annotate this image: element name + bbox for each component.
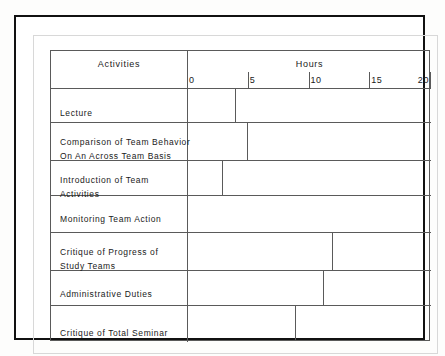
chart-row[interactable]: Lecture [51, 88, 431, 123]
chart-bar[interactable] [187, 233, 333, 271]
x-axis-ticks: 05101520 [51, 72, 431, 88]
x-axis-tick-label: 15 [371, 75, 382, 85]
x-axis-tick-mark [187, 72, 188, 88]
column-header-hours: Hours [188, 51, 431, 71]
chart-bar[interactable] [187, 88, 236, 123]
chart-row[interactable]: Critique of Progress ofStudy Teams [51, 233, 431, 271]
chart-bar-end-marker [323, 271, 324, 306]
chart-bar-end-marker [332, 233, 333, 271]
chart-row-label-line: Critique of Total Seminar [60, 326, 185, 340]
chart-row[interactable]: Monitoring Team Action [51, 196, 431, 233]
chart-row[interactable]: Critique of Total Seminar [51, 306, 431, 341]
chart-row-label-line: Comparison of Team Behavior [60, 135, 185, 149]
chart-bar-end-marker [295, 306, 296, 341]
outer-frame-border: Activities Hours 05101520 LectureCompari… [14, 15, 425, 340]
x-axis-tick-label: 5 [250, 75, 256, 85]
chart-row-label: Administrative Duties [60, 287, 185, 301]
chart-row-label-line: Monitoring Team Action [60, 212, 185, 226]
chart-bar[interactable] [187, 271, 324, 306]
chart-bar[interactable] [187, 123, 248, 161]
chart-plot-table: Activities Hours 05101520 LectureCompari… [50, 50, 430, 341]
chart-row-label: Critique of Progress ofStudy Teams [60, 245, 185, 273]
x-axis-tick-mark [309, 72, 310, 88]
chart-bar[interactable] [187, 161, 223, 196]
chart-bar-end-marker [235, 88, 236, 123]
x-axis-tick-label: 0 [189, 75, 195, 85]
chart-row-label-line: Introduction of Team [60, 173, 185, 187]
chart-row-label: Critique of Total Seminar [60, 326, 185, 340]
chart-row[interactable]: Comparison of Team BehaviorOn An Across … [51, 123, 431, 161]
chart-bar[interactable] [187, 306, 296, 341]
chart-row-label-line: Critique of Progress of [60, 245, 185, 259]
chart-row-label-line: Administrative Duties [60, 287, 185, 301]
chart-bar-end-marker [222, 161, 223, 196]
chart-row[interactable]: Administrative Duties [51, 271, 431, 306]
column-header-activities-label: Activities [98, 59, 141, 69]
x-axis-tick-mark [248, 72, 249, 88]
chart-bar-end-marker [247, 123, 248, 161]
x-axis-tick-label: 20 [418, 75, 429, 85]
chart-row-label: Lecture [60, 106, 185, 120]
x-axis-tick-mark [430, 72, 431, 88]
column-header-hours-label: Hours [296, 59, 324, 69]
x-axis-tick-mark [369, 72, 370, 88]
chart-figure: Activities Hours 05101520 LectureCompari… [0, 0, 445, 356]
chart-row-label: Comparison of Team BehaviorOn An Across … [60, 135, 185, 163]
chart-row[interactable]: Introduction of TeamActivities [51, 161, 431, 196]
chart-bar[interactable] [187, 196, 430, 233]
chart-row-label: Monitoring Team Action [60, 212, 185, 226]
chart-row-label-line: Lecture [60, 106, 185, 120]
x-axis-tick-label: 10 [311, 75, 322, 85]
